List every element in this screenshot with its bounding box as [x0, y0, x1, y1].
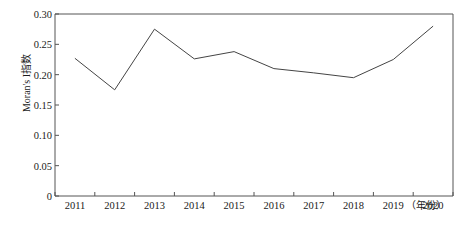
x-axis-ticks [55, 192, 453, 196]
plot-area [0, 0, 462, 226]
data-line-series-1 [75, 26, 433, 90]
plot-frame [55, 14, 453, 196]
y-axis-ticks [55, 14, 59, 196]
line-chart: Moran's I指数 0 0.05 0.10 0.15 0.20 0.25 0… [0, 0, 462, 226]
